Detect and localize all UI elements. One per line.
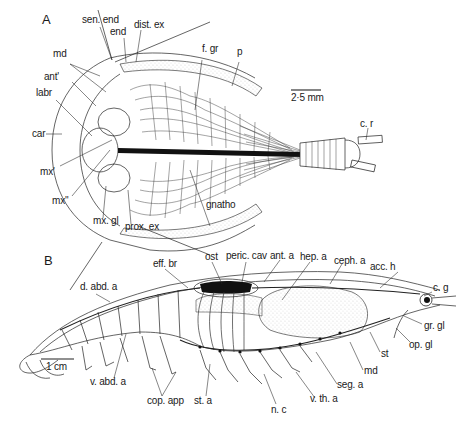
label-st: st [381, 349, 388, 359]
label-mx-prime: mx' [40, 167, 55, 177]
label-p: p [237, 47, 242, 57]
scale-bar-b-label: 1 cm [46, 362, 67, 372]
label-cop-app: cop. app [147, 396, 184, 406]
label-mx-gl: mx. gl [93, 216, 118, 226]
label-dist-ex: dist. ex [134, 20, 164, 30]
telson [300, 135, 382, 172]
label-hep-a: hep. a [300, 252, 327, 262]
label-md-b: md [364, 366, 378, 376]
label-d-abd-a: d. abd. a [80, 282, 117, 292]
label-gr-gl: gr. gl [424, 321, 444, 331]
label-v-abd-a: v. abd. a [90, 377, 126, 387]
label-end: end [110, 27, 126, 37]
label-c-r: c. r [360, 119, 373, 129]
label-v-th-a: v. th. a [310, 394, 338, 404]
label-ceph-a: ceph. a [334, 256, 365, 266]
label-md-a: md [53, 49, 67, 59]
label-c-g: c. g [433, 283, 448, 293]
label-n-c: n. c [271, 405, 286, 415]
label-mx-double-prime: mx'' [52, 196, 68, 206]
label-seg-a: seg. a [337, 380, 363, 390]
label-sen-end: sen. end [82, 15, 119, 25]
label-ant-a: ant. a [270, 251, 294, 261]
label-gnatho: gnatho [206, 200, 235, 210]
label-acc-h: acc. h [370, 262, 395, 272]
label-ost: ost [205, 252, 218, 262]
panel-b-label: B [44, 254, 53, 267]
label-prox-ex: prox. ex [125, 222, 159, 232]
label-labr: labr [36, 88, 52, 98]
scale-bar-a-label: 2·5 mm [291, 93, 324, 103]
label-st-a: st. a [194, 396, 212, 406]
label-eff-br: eff. br [153, 259, 177, 269]
label-f-gr: f. gr [202, 44, 218, 54]
label-car: car [32, 129, 45, 139]
label-peric-cav: peric. cav [226, 251, 267, 261]
label-ant-prime: ant' [44, 72, 59, 82]
label-op-gl: op. gl [409, 340, 432, 350]
panel-a-label: A [42, 13, 51, 26]
